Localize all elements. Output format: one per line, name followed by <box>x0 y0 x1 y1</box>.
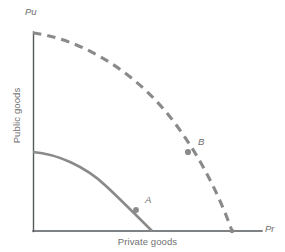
point-b-label: B <box>198 136 204 147</box>
x-axis-title: Private goods <box>33 236 262 247</box>
point-a-label: A <box>145 194 151 205</box>
y-axis-endpoint-label: Pu <box>25 6 37 17</box>
outer-ppf-x-intercept-marker <box>230 229 234 233</box>
ppf-chart-svg <box>0 0 285 252</box>
outer-ppf-dashed-curve <box>33 33 232 231</box>
point-a-marker <box>133 207 139 213</box>
chart-figure: Pu Pr Public goods Private goods A B <box>0 0 285 252</box>
inner-ppf-solid-curve <box>33 152 152 231</box>
y-axis-title: Public goods <box>11 76 22 156</box>
x-axis-endpoint-label: Pr <box>265 223 275 234</box>
point-b-marker <box>185 149 191 155</box>
